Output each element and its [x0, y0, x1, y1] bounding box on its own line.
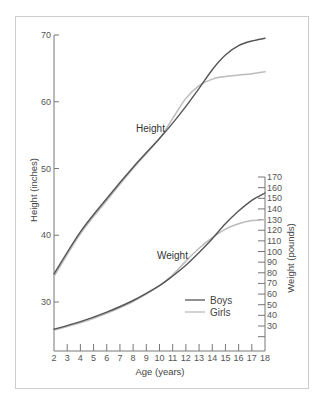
right-y-tick-label: 60	[267, 289, 277, 299]
x-tick-label: 16	[234, 353, 244, 363]
left-y-tick-label: 30	[41, 297, 51, 307]
x-tick-label: 8	[131, 353, 136, 363]
x-tick-label: 3	[65, 353, 70, 363]
right-y-tick-label: 140	[267, 204, 282, 214]
x-tick-label: 11	[168, 353, 177, 363]
right-y-tick-label: 80	[267, 268, 277, 278]
right-y-tick-label: 170	[267, 172, 282, 182]
right-y-axis-title: Weight (pounds)	[285, 223, 296, 293]
x-tick-label: 18	[260, 353, 270, 363]
right-y-tick-label: 90	[267, 257, 277, 267]
right-y-tick-label: 40	[267, 310, 277, 320]
growth-chart: 3040506070234567891011121314151617183040…	[0, 0, 324, 409]
x-tick-label: 6	[104, 353, 109, 363]
x-tick-label: 9	[144, 353, 149, 363]
left-y-tick-label: 60	[41, 97, 51, 107]
right-y-tick-label: 150	[267, 193, 282, 203]
x-tick-label: 17	[247, 353, 257, 363]
x-tick-label: 14	[207, 353, 217, 363]
left-y-tick-label: 50	[41, 164, 51, 174]
right-y-tick-label: 100	[267, 247, 282, 257]
x-tick-label: 12	[181, 353, 191, 363]
x-tick-label: 2	[51, 353, 56, 363]
x-tick-label: 13	[194, 353, 204, 363]
x-tick-label: 10	[154, 353, 164, 363]
x-tick-label: 4	[78, 353, 83, 363]
left-y-tick-label: 70	[41, 30, 51, 40]
right-y-tick-label: 110	[267, 236, 281, 246]
x-tick-label: 5	[91, 353, 96, 363]
left-y-tick-label: 40	[41, 230, 51, 240]
right-y-tick-label: 120	[267, 225, 282, 235]
annotation-weight: Weight	[157, 250, 188, 261]
annotation-height: Height	[136, 123, 165, 134]
right-y-tick-label: 50	[267, 300, 277, 310]
x-axis-title: Age (years)	[135, 366, 184, 377]
legend-label-girls: Girls	[210, 307, 231, 318]
x-tick-label: 15	[220, 353, 230, 363]
right-y-tick-label: 30	[267, 321, 277, 331]
right-y-tick-label: 160	[267, 183, 282, 193]
right-y-tick-label: 70	[267, 278, 277, 288]
legend-label-boys: Boys	[210, 295, 232, 306]
left-y-axis-title: Height (inches)	[28, 158, 39, 222]
right-y-tick-label: 130	[267, 215, 282, 225]
x-tick-label: 7	[117, 353, 122, 363]
